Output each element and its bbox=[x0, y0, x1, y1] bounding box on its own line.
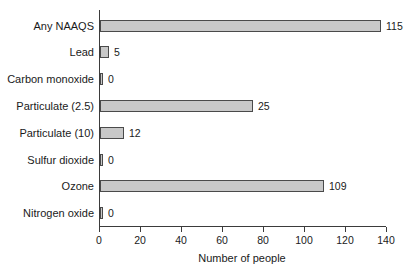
x-axis-tick bbox=[140, 227, 141, 232]
bar bbox=[100, 100, 253, 112]
bar-value-label: 115 bbox=[386, 20, 403, 32]
x-axis-tick bbox=[345, 227, 346, 232]
chart-row: Any NAAQS115 bbox=[0, 12, 412, 39]
category-label: Any NAAQS bbox=[33, 19, 94, 32]
bar-chart: Any NAAQS115Lead5Carbon monoxide0Particu… bbox=[0, 0, 412, 279]
x-axis-tick-label: 60 bbox=[216, 234, 228, 246]
x-axis-tick-label: 140 bbox=[377, 234, 395, 246]
chart-row: Carbon monoxide0 bbox=[0, 66, 412, 93]
x-axis-line bbox=[99, 226, 386, 227]
category-label: Nitrogen oxide bbox=[23, 207, 94, 220]
category-label: Particulate (2.5) bbox=[16, 99, 94, 112]
x-axis-tick-label: 120 bbox=[336, 234, 354, 246]
chart-row: Nitrogen oxide0 bbox=[0, 200, 412, 227]
bar bbox=[100, 207, 103, 219]
bar bbox=[100, 127, 124, 139]
bar bbox=[100, 180, 324, 192]
y-axis-line bbox=[99, 10, 100, 226]
chart-row: Ozone109 bbox=[0, 173, 412, 200]
x-axis-tick bbox=[386, 227, 387, 232]
x-axis-tick bbox=[99, 227, 100, 232]
x-axis-tick bbox=[222, 227, 223, 232]
bar-value-label: 5 bbox=[114, 46, 120, 58]
chart-row: Sulfur dioxide0 bbox=[0, 146, 412, 173]
x-axis-tick-label: 80 bbox=[257, 234, 269, 246]
category-label: Particulate (10) bbox=[19, 126, 94, 139]
x-axis-title: Number of people bbox=[0, 252, 412, 265]
category-label: Sulfur dioxide bbox=[27, 153, 94, 166]
bar bbox=[100, 73, 103, 85]
bar-value-label: 109 bbox=[329, 180, 347, 192]
bar-value-label: 25 bbox=[258, 100, 270, 112]
category-label: Carbon monoxide bbox=[7, 73, 94, 86]
chart-row: Particulate (10)12 bbox=[0, 119, 412, 146]
chart-row: Particulate (2.5)25 bbox=[0, 92, 412, 119]
chart-row: Lead5 bbox=[0, 39, 412, 66]
x-axis-tick bbox=[304, 227, 305, 232]
bar-value-label: 0 bbox=[108, 207, 114, 219]
category-label: Ozone bbox=[62, 180, 94, 193]
bar bbox=[100, 20, 381, 32]
x-axis-tick bbox=[181, 227, 182, 232]
x-axis-tick-label: 100 bbox=[295, 234, 313, 246]
x-axis-tick-label: 0 bbox=[96, 234, 102, 246]
x-axis-title-text: Number of people bbox=[198, 252, 285, 264]
x-axis-tick-label: 40 bbox=[175, 234, 187, 246]
x-axis-tick bbox=[263, 227, 264, 232]
bar-value-label: 0 bbox=[108, 154, 114, 166]
x-axis-tick-label: 20 bbox=[134, 234, 146, 246]
category-label: Lead bbox=[70, 46, 94, 59]
bar-value-label: 12 bbox=[129, 127, 141, 139]
bar-value-label: 0 bbox=[108, 73, 114, 85]
bar bbox=[100, 46, 109, 58]
bar bbox=[100, 154, 103, 166]
